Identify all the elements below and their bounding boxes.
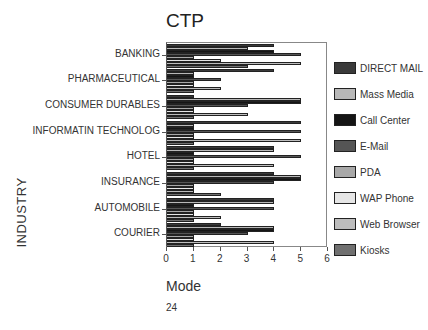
- bar: [167, 244, 194, 247]
- legend-item: Web Browser: [334, 211, 423, 237]
- page-number: 24: [166, 302, 177, 313]
- x-tick-label: 5: [295, 253, 305, 264]
- x-tick-label: 0: [161, 253, 171, 264]
- y-tick: [162, 157, 166, 158]
- legend-item: Call Center: [334, 107, 423, 133]
- bar: [167, 193, 221, 196]
- legend-swatch: [334, 88, 356, 100]
- y-tick: [162, 80, 166, 81]
- x-tick-label: 6: [322, 253, 332, 264]
- legend-item: PDA: [334, 159, 423, 185]
- category-label: INSURANCE: [101, 176, 160, 187]
- y-axis-label: INDUSTRY: [14, 177, 29, 247]
- legend-label: DIRECT MAIL: [360, 63, 423, 74]
- x-tick: [193, 247, 194, 251]
- y-tick: [162, 132, 166, 133]
- y-tick: [162, 183, 166, 184]
- x-tick: [220, 247, 221, 251]
- legend-swatch: [334, 140, 356, 152]
- bar: [167, 142, 194, 145]
- bar: [167, 116, 194, 119]
- y-tick: [162, 209, 166, 210]
- legend-swatch: [334, 62, 356, 74]
- legend-label: Call Center: [360, 115, 410, 126]
- legend-item: E-Mail: [334, 133, 423, 159]
- x-tick: [300, 247, 301, 251]
- x-tick-label: 4: [268, 253, 278, 264]
- legend-swatch: [334, 114, 356, 126]
- y-tick: [162, 234, 166, 235]
- x-tick-label: 2: [215, 253, 225, 264]
- bar: [167, 65, 248, 68]
- category-label: HOTEL: [127, 150, 160, 161]
- category-label: CONSUMER DURABLES: [45, 99, 160, 110]
- x-tick: [327, 247, 328, 251]
- x-tick: [247, 247, 248, 251]
- x-tick: [273, 247, 274, 251]
- plot-area: [166, 42, 327, 247]
- legend-item: WAP Phone: [334, 185, 423, 211]
- legend-swatch: [334, 218, 356, 230]
- category-label: COURIER: [114, 227, 160, 238]
- legend-swatch: [334, 166, 356, 178]
- legend-item: DIRECT MAIL: [334, 55, 423, 81]
- legend-item: Mass Media: [334, 81, 423, 107]
- category-label: AUTOMOBILE: [95, 202, 160, 213]
- y-tick: [162, 106, 166, 107]
- bar: [167, 167, 194, 170]
- legend: DIRECT MAILMass MediaCall CenterE-MailPD…: [334, 55, 423, 263]
- chart-title: CTP: [166, 10, 204, 32]
- legend-item: Kiosks: [334, 237, 423, 263]
- bar: [167, 219, 194, 222]
- legend-label: Mass Media: [360, 89, 414, 100]
- y-tick: [162, 55, 166, 56]
- category-label: INFORMATIN TECHNOLOG: [33, 125, 160, 136]
- x-tick-label: 3: [242, 253, 252, 264]
- legend-label: WAP Phone: [360, 193, 414, 204]
- legend-swatch: [334, 244, 356, 256]
- category-label: PHARMACEUTICAL: [68, 73, 160, 84]
- category-label: BANKING: [115, 48, 160, 59]
- x-axis-label: Mode: [166, 278, 201, 294]
- x-tick-label: 1: [188, 253, 198, 264]
- legend-label: E-Mail: [360, 141, 388, 152]
- x-tick: [166, 247, 167, 251]
- legend-swatch: [334, 192, 356, 204]
- legend-label: Web Browser: [360, 219, 420, 230]
- bar: [167, 90, 194, 93]
- legend-label: PDA: [360, 167, 381, 178]
- legend-label: Kiosks: [360, 245, 389, 256]
